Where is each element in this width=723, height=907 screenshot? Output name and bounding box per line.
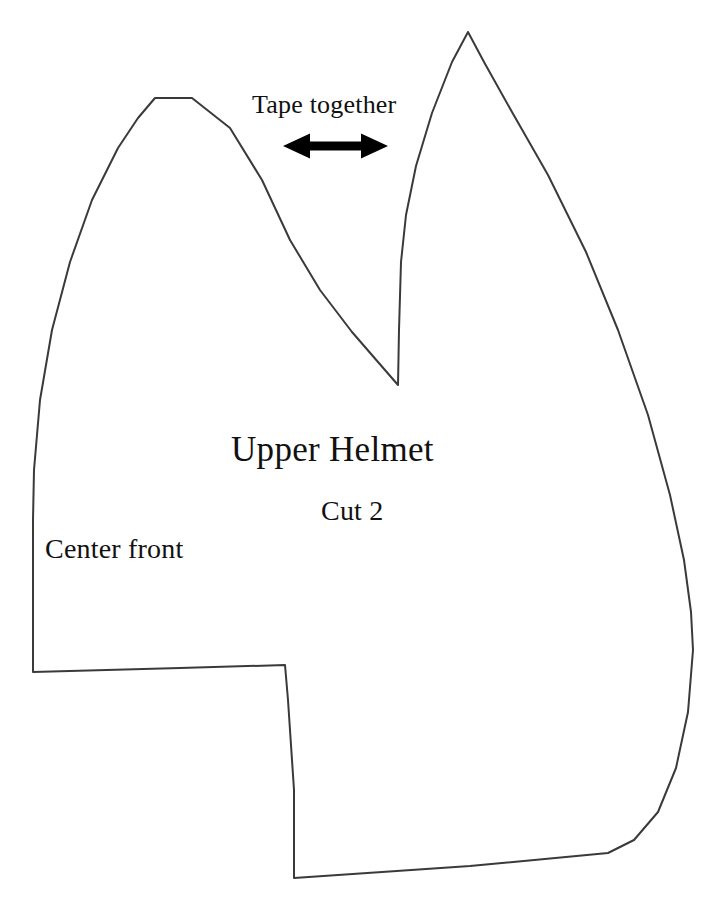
double-arrow-icon xyxy=(283,134,388,159)
cut-quantity-label: Cut 2 xyxy=(321,497,383,525)
pattern-sheet: Tape together Upper Helmet Cut 2 Center … xyxy=(0,0,723,907)
center-front-label: Center front xyxy=(45,535,183,563)
tape-together-label: Tape together xyxy=(252,92,396,118)
piece-name-label: Upper Helmet xyxy=(231,432,434,467)
